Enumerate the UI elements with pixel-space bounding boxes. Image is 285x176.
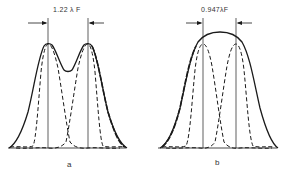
sum-curve-left-shoulder <box>162 46 196 147</box>
right-airy-curve <box>16 44 126 148</box>
separation-label-a: 1.22 λ F <box>53 6 81 13</box>
resolution-diagram <box>0 0 285 176</box>
panel-label-b: b <box>215 158 219 167</box>
right-arrow-head-icon <box>237 21 243 25</box>
left-arrow-head-icon <box>42 21 48 25</box>
left-arrow-head-icon <box>197 21 203 25</box>
left-airy-curve <box>10 44 120 148</box>
separation-label-b: 0.947λF <box>201 6 228 13</box>
sum-curve-right-shoulder <box>92 46 125 147</box>
panel-b <box>158 18 278 148</box>
right-arrow-head-icon <box>89 21 95 25</box>
panel-label-a: a <box>67 160 71 169</box>
panel-a <box>8 18 127 148</box>
sum-curve <box>160 32 278 148</box>
